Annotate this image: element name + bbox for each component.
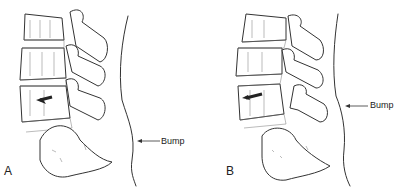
bump-annotation-b: Bump bbox=[370, 100, 394, 110]
panel-a: A Bump bbox=[0, 0, 200, 189]
panel-b: B Bump bbox=[200, 0, 399, 189]
panel-label-a: A bbox=[4, 164, 12, 178]
panel-label-b: B bbox=[226, 164, 234, 178]
spine-illustration-b bbox=[200, 0, 399, 189]
spine-illustration-a bbox=[0, 0, 200, 189]
bump-annotation-a: Bump bbox=[161, 136, 185, 146]
